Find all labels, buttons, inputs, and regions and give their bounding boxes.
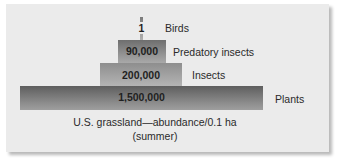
birds-value: 1 bbox=[136, 22, 147, 34]
plants-bar: 1,500,000 bbox=[20, 86, 263, 110]
predatory-insects-bar: 90,000 bbox=[118, 40, 166, 63]
insects-bar: 200,000 bbox=[100, 63, 182, 86]
birds-label: Birds bbox=[165, 22, 189, 34]
caption-line-2: (summer) bbox=[0, 130, 310, 142]
plants-value: 1,500,000 bbox=[20, 91, 263, 103]
caption-line-1: U.S. grassland—abundance/0.1 ha bbox=[0, 116, 310, 128]
plants-label: Plants bbox=[275, 93, 304, 105]
predatory-insects-label: Predatory insects bbox=[173, 46, 254, 58]
predatory-insects-value: 90,000 bbox=[118, 45, 166, 57]
insects-value: 200,000 bbox=[100, 69, 182, 81]
insects-label: Insects bbox=[192, 69, 225, 81]
